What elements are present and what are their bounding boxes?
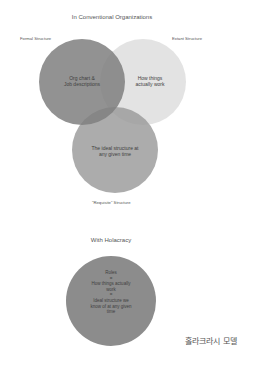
requisite-structure-label: "Requisite" Structure [92, 200, 131, 205]
formal-structure-text: Org chart & Job descriptions [52, 75, 112, 87]
holacracy-model-caption: 홀라크라시 모델 [185, 335, 237, 346]
requisite-structure-text: The ideal structure at any given time [75, 145, 155, 157]
holacracy-text: Roles = How things actually work = Ideal… [76, 270, 146, 315]
formal-text-line-2: Job descriptions [52, 81, 112, 87]
holacracy-line-time: time [76, 309, 146, 315]
requisite-text-line-2: any given time [75, 151, 155, 157]
holacracy-title: With Holacracy [66, 237, 156, 243]
extant-text-line-2: actually work [120, 81, 180, 87]
extant-structure-text: How things actually work [120, 75, 180, 87]
